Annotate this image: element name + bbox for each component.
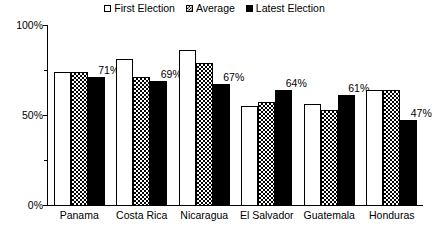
- checkered-square-icon: [186, 5, 193, 12]
- plot-area: 100%50%0% 71%69%67%64%61%47%: [47, 25, 423, 205]
- bar-group-bars: [298, 25, 361, 205]
- x-axis-category-label: Nicaragua: [173, 209, 236, 221]
- bar-average: [383, 90, 400, 205]
- y-axis-label: 0%: [28, 200, 43, 211]
- bar-group: 69%: [111, 25, 174, 205]
- bar-latest-election: [213, 84, 230, 205]
- chart-legend: First Election Average Latest Election: [0, 2, 429, 14]
- bar-latest-election: [150, 81, 167, 205]
- legend-item-average: Average: [186, 2, 235, 14]
- bar-group: 47%: [361, 25, 424, 205]
- bar-latest-election: [338, 95, 355, 205]
- bar-first-election: [54, 72, 71, 205]
- bar-value-label: 47%: [411, 108, 432, 119]
- y-axis-label: 50%: [22, 110, 43, 121]
- bar-first-election: [304, 104, 321, 205]
- bar-group: 64%: [236, 25, 299, 205]
- bar-group: 67%: [173, 25, 236, 205]
- black-square-icon: [246, 5, 253, 12]
- y-axis-label: 100%: [16, 20, 43, 31]
- bar-average: [71, 72, 88, 205]
- bar-first-election: [179, 50, 196, 205]
- x-axis-category-label: Honduras: [361, 209, 424, 221]
- x-axis-category-label: Costa Rica: [111, 209, 174, 221]
- x-axis-line: [47, 205, 423, 206]
- bar-group: 71%: [48, 25, 111, 205]
- legend-label: First Election: [114, 2, 175, 14]
- x-axis-category-label: Panama: [48, 209, 111, 221]
- bar-group: 61%: [298, 25, 361, 205]
- legend-label: Latest Election: [256, 2, 325, 14]
- legend-item-first-election: First Election: [104, 2, 175, 14]
- bar-latest-election: [400, 120, 417, 205]
- bar-first-election: [241, 106, 258, 205]
- y-axis-tick: [43, 205, 48, 206]
- bar-group-bars: [111, 25, 174, 205]
- bar-average: [258, 102, 275, 205]
- bar-average: [321, 110, 338, 205]
- bar-groups: 71%69%67%64%61%47%: [48, 25, 423, 205]
- bar-group-bars: [173, 25, 236, 205]
- x-axis-category-labels: PanamaCosta RicaNicaraguaEl SalvadorGuat…: [48, 209, 423, 221]
- x-axis-category-label: El Salvador: [236, 209, 299, 221]
- bar-group-bars: [48, 25, 111, 205]
- bar-group-bars: [236, 25, 299, 205]
- bar-first-election: [116, 59, 133, 205]
- bar-average: [196, 63, 213, 205]
- bar-latest-election: [88, 77, 105, 205]
- x-axis-category-label: Guatemala: [298, 209, 361, 221]
- legend-item-latest-election: Latest Election: [246, 2, 325, 14]
- bar-average: [133, 77, 150, 205]
- bar-latest-election: [275, 90, 292, 205]
- bar-first-election: [366, 90, 383, 205]
- legend-label: Average: [196, 2, 235, 14]
- white-square-icon: [104, 5, 111, 12]
